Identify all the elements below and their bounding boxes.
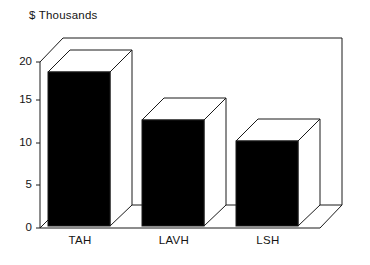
bar-tah[interactable] — [48, 50, 132, 226]
floor-right-depth-edge — [320, 205, 342, 228]
chart-plot-area — [0, 0, 370, 265]
ytick-label-10: 10 — [2, 136, 32, 148]
ytick-label-15: 15 — [2, 93, 32, 105]
bar-chart: $ Thousands 20 15 10 5 0 TAH LAVH LSH — [0, 0, 370, 265]
bar-lavh-front-face — [142, 120, 204, 226]
bar-lsh-front-face — [236, 141, 298, 226]
ytick-label-0: 0 — [2, 221, 32, 233]
xtick-label-lavh: LAVH — [143, 234, 205, 246]
chart-axis-title: $ Thousands — [29, 9, 97, 21]
bar-lavh[interactable] — [142, 98, 226, 226]
bar-lsh[interactable] — [236, 119, 320, 226]
bar-tah-side-face — [110, 50, 132, 226]
bar-tah-front-face — [48, 72, 110, 226]
xtick-label-lsh: LSH — [237, 234, 299, 246]
ytick-label-5: 5 — [2, 178, 32, 190]
left-depth-edge-top — [40, 38, 63, 62]
y-axis-ticks — [36, 62, 40, 228]
bar-lavh-side-face — [204, 98, 226, 226]
xtick-label-tah: TAH — [49, 234, 111, 246]
ytick-label-20: 20 — [2, 55, 32, 67]
